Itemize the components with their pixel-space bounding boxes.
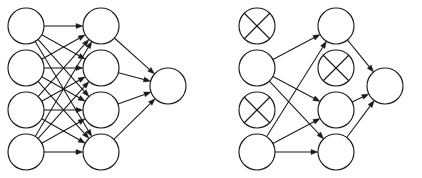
neuron-node-L-hid-3[interactable] xyxy=(83,92,119,128)
panel-standard-network xyxy=(8,8,186,170)
neuron-node-L-in-1[interactable] xyxy=(8,8,44,44)
arrowhead-icon xyxy=(311,150,318,155)
edge-R-in-4-to-R-hid-3 xyxy=(273,122,314,144)
edge-R-in-4-to-R-hid-1 xyxy=(267,47,323,137)
neuron-node-L-out-1[interactable] xyxy=(150,68,186,104)
arrowhead-icon xyxy=(78,138,85,144)
neuron-node-R-in-2[interactable] xyxy=(239,50,275,86)
arrowhead-icon xyxy=(78,96,85,102)
arrowhead-icon xyxy=(78,77,85,83)
arrowhead-icon xyxy=(313,96,320,101)
panel-dropout-network xyxy=(239,8,403,170)
edge-R-in-2-to-R-hid-4 xyxy=(269,81,319,134)
neuron-node-L-in-3[interactable] xyxy=(8,92,44,128)
arrowhead-icon xyxy=(76,24,83,29)
arrowhead-icon xyxy=(313,34,320,39)
neuron-node-R-out-1[interactable] xyxy=(367,68,403,104)
network-diagram-svg xyxy=(0,0,422,178)
node-group xyxy=(239,8,403,170)
arrowhead-icon xyxy=(76,150,83,155)
arrowhead-icon xyxy=(321,41,327,48)
neuron-node-R-in-4[interactable] xyxy=(239,134,275,170)
neuron-node-R-hid-4[interactable] xyxy=(318,134,354,170)
arrowhead-icon xyxy=(313,118,320,123)
arrowhead-icon xyxy=(144,92,151,97)
arrowhead-icon xyxy=(368,100,374,107)
neuron-node-L-in-2[interactable] xyxy=(8,50,44,86)
neuron-node-L-hid-1[interactable] xyxy=(83,8,119,44)
edge-L-in-3-to-L-hid-1 xyxy=(38,45,84,97)
arrowhead-icon xyxy=(143,77,150,82)
neuron-node-R-hid-1[interactable] xyxy=(318,8,354,44)
edge-L-hid-2-to-L-out-1 xyxy=(118,73,143,80)
arrowhead-icon xyxy=(361,94,368,99)
edge-L-hid-1-to-L-out-1 xyxy=(114,38,149,69)
neural-network-figure xyxy=(0,0,422,178)
neuron-node-L-hid-4[interactable] xyxy=(83,134,119,170)
edge-R-hid-3-to-R-out-1 xyxy=(352,97,362,102)
arrowhead-icon xyxy=(78,35,85,41)
neuron-node-L-in-4[interactable] xyxy=(8,134,44,170)
node-group xyxy=(8,8,186,170)
edge-L-hid-3-to-L-out-1 xyxy=(118,94,145,104)
arrowhead-icon xyxy=(76,108,83,113)
neuron-node-L-hid-2[interactable] xyxy=(83,50,119,86)
edge-L-in-4-to-L-hid-3 xyxy=(42,122,79,143)
edge-L-in-1-to-L-hid-2 xyxy=(42,35,79,56)
edge-R-in-2-to-R-hid-1 xyxy=(273,38,314,60)
edge-R-in-2-to-R-hid-3 xyxy=(273,76,314,98)
edge-group xyxy=(267,34,375,154)
neuron-node-R-hid-3[interactable] xyxy=(318,92,354,128)
